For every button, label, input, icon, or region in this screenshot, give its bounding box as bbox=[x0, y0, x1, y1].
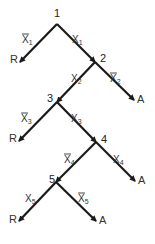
edge-variable: X4 bbox=[64, 154, 75, 166]
edge-variable-index: 2 bbox=[117, 78, 121, 85]
edge-variable-index: 4 bbox=[120, 159, 124, 166]
edge-variable-index: 5 bbox=[32, 198, 36, 205]
edge-variable-index: 2 bbox=[78, 78, 82, 85]
edge-label-1-t1: X1 bbox=[22, 34, 33, 46]
node-1: 1 bbox=[54, 7, 60, 19]
edge-variable: X3 bbox=[21, 113, 32, 125]
edge-variable: X4 bbox=[113, 154, 124, 166]
edge-5-t6 bbox=[56, 182, 96, 221]
edge-variable-index: 1 bbox=[79, 39, 83, 46]
edge-label-3-4: X3 bbox=[71, 113, 82, 125]
edge-variable: X5 bbox=[78, 193, 89, 205]
decision-tree-diagram: X1X1X2X2X3X3X4X4X5X5 12345RARARA bbox=[0, 0, 155, 244]
edge-variable-index: 3 bbox=[28, 118, 32, 125]
terminal-reject: R bbox=[10, 53, 18, 65]
node-3: 3 bbox=[47, 92, 53, 104]
edge-variable-index: 1 bbox=[29, 39, 33, 46]
edge-label-1-2: X1 bbox=[72, 34, 83, 46]
edge-label-5-t5: X5 bbox=[25, 193, 36, 205]
edge-variable: X3 bbox=[71, 113, 82, 125]
edge-4-5 bbox=[56, 142, 96, 182]
edge-label-5-t6: X5 bbox=[78, 193, 89, 205]
edge-label-3-t3: X3 bbox=[21, 113, 32, 125]
terminal-reject: R bbox=[9, 132, 17, 144]
edge-variable: X5 bbox=[25, 193, 36, 205]
node-4: 4 bbox=[101, 133, 107, 145]
edge-variable: X2 bbox=[71, 73, 82, 85]
edge-variable-index: 5 bbox=[85, 198, 89, 205]
edge-label-2-3: X2 bbox=[71, 73, 82, 85]
edge-variable-index: 3 bbox=[78, 118, 82, 125]
node-2: 2 bbox=[100, 52, 106, 64]
edge-variable: X2 bbox=[110, 73, 121, 85]
edge-variable: X1 bbox=[22, 34, 33, 46]
edge-label-4-t4: X4 bbox=[113, 154, 124, 166]
edge-variable: X1 bbox=[72, 34, 83, 46]
terminal-accept: A bbox=[99, 214, 107, 226]
terminal-reject: R bbox=[9, 213, 17, 225]
terminal-accept: A bbox=[138, 174, 146, 186]
edge-label-2-t2: X2 bbox=[110, 73, 121, 85]
node-5: 5 bbox=[49, 173, 55, 185]
terminal-accept: A bbox=[137, 93, 145, 105]
edge-label-4-5: X4 bbox=[64, 154, 75, 166]
edge-variable-index: 4 bbox=[71, 159, 75, 166]
